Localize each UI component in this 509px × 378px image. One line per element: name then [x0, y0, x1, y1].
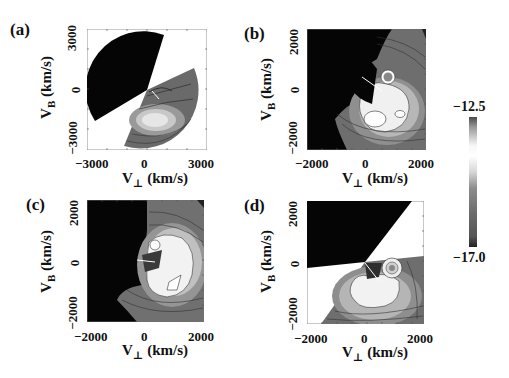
- panel-b-ytick-max: 2000: [286, 29, 302, 55]
- panel-b-xtick-max: 2000: [408, 156, 434, 172]
- panel-b-xlabel: V⊥ (km/s): [342, 170, 408, 190]
- panel-c-plot: [87, 200, 204, 322]
- panel-a-plot: [87, 29, 207, 150]
- panel-d-xtick-min: −2000: [294, 331, 327, 347]
- panel-d-ytick-max: 2000: [285, 201, 301, 227]
- panel-c-xtick-max: 2000: [188, 329, 214, 345]
- panel-a-ytick-max: 3000: [64, 25, 80, 51]
- panel-label-b: (b): [244, 24, 265, 44]
- panel-c-ytick-max: 2000: [66, 200, 82, 226]
- panel-label-c: (c): [26, 195, 45, 215]
- panel-b-ytick-zero: 0: [287, 87, 303, 94]
- colorbar-max-label: −12.5: [453, 99, 485, 115]
- panel-b-plot: [307, 29, 426, 150]
- colorbar: [469, 117, 477, 247]
- panel-a-xlabel: V⊥ (km/s): [122, 170, 188, 190]
- panel-a-xtick-max: 3000: [188, 156, 214, 172]
- panel-b-ytick-min: −2000: [285, 121, 301, 154]
- panel-c-ytick-zero: 0: [67, 260, 83, 267]
- panel-d-ytick-zero: 0: [287, 261, 303, 268]
- panel-a-ytick-min: −3000: [65, 121, 81, 154]
- panel-c-ytick-min: −2000: [65, 296, 81, 329]
- panel-label-d: (d): [244, 196, 265, 216]
- panel-d-xtick-max: 2000: [407, 331, 433, 347]
- panel-c-xtick-min: −2000: [74, 329, 107, 345]
- panel-d-plot: [307, 201, 424, 324]
- colorbar-min-label: −17.0: [453, 250, 485, 266]
- panel-d-ylabel: VB (km/s): [258, 230, 277, 293]
- panel-d-xlabel: V⊥ (km/s): [342, 344, 408, 364]
- panel-a-ylabel: VB (km/s): [38, 56, 57, 119]
- panel-a-xtick-min: −3000: [75, 156, 108, 172]
- panel-b-xtick-min: −2000: [295, 156, 328, 172]
- panel-c-xlabel: V⊥ (km/s): [122, 342, 188, 362]
- panel-label-a: (a): [10, 20, 30, 40]
- panel-a-ytick-zero: 0: [68, 87, 84, 94]
- panel-b-ylabel: VB (km/s): [258, 58, 277, 121]
- panel-c-ylabel: VB (km/s): [38, 230, 57, 293]
- panel-d-ytick-min: −2000: [285, 297, 301, 330]
